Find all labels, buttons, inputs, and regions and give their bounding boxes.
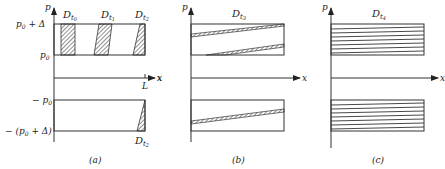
p-axis-label: p	[45, 2, 51, 12]
x-axis-label: x	[440, 73, 445, 83]
panel-c: p x Dt4 (c)	[322, 2, 445, 165]
filament-upper-1	[191, 24, 284, 37]
filament-lines-lower	[331, 103, 424, 129]
tick-p0: p0	[40, 50, 50, 61]
Dt4-label: Dt4	[371, 8, 386, 21]
caption-b: (b)	[232, 155, 245, 165]
Dt2-lower-label: Dt2	[134, 135, 149, 148]
Dt2-label: Dt2	[134, 9, 149, 22]
caption-c: (c)	[372, 155, 385, 165]
figure-svg: p x L Dt0 Dt1 Dt2 p0 + Δ p0 − p0 − (p0 +…	[0, 0, 445, 169]
tick-p0-plus-delta: p0 + Δ	[16, 19, 45, 30]
p-axis-label: p	[322, 2, 328, 12]
lower-band	[54, 100, 145, 131]
caption-a: (a)	[89, 155, 102, 165]
x-axis-label: x	[302, 73, 307, 83]
region-Dt0	[61, 24, 75, 55]
panel-a: p x L Dt0 Dt1 Dt2 p0 + Δ p0 − p0 − (p0 +…	[5, 2, 162, 165]
filament-lines-upper	[331, 27, 424, 53]
tick-minus-p0-plus-delta: − (p0 + Δ)	[5, 126, 52, 137]
Dt1-label: Dt1	[100, 9, 115, 22]
tick-minus-p0: − p0	[32, 95, 52, 106]
panel-b: p x x Dt3 (b)	[157, 2, 307, 165]
Dt0-label: Dt0	[62, 9, 78, 22]
Dt3-label: Dt3	[231, 8, 246, 21]
filament-upper-2	[206, 44, 284, 55]
region-Dt2-lower	[137, 100, 145, 131]
x-axis-label-left: x	[157, 73, 162, 83]
L-label: L	[141, 81, 148, 91]
region-Dt1	[94, 24, 112, 55]
filament-lower	[191, 109, 284, 124]
phase-space-figure: p x L Dt0 Dt1 Dt2 p0 + Δ p0 − p0 − (p0 +…	[0, 0, 445, 169]
region-Dt2	[133, 24, 145, 55]
p-axis-label: p	[182, 2, 188, 12]
